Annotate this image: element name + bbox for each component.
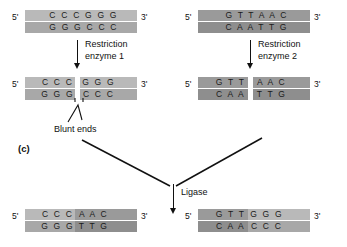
strand-bases-bottom-right: T T G xyxy=(75,221,111,232)
base-sequence-top-right: G G G xyxy=(249,210,284,219)
converging-arm-right xyxy=(176,138,262,186)
base-sequence-top-right: G G G xyxy=(81,78,116,87)
three-prime-label-right-uncut: 3' xyxy=(314,13,320,22)
base-sequence-top-right: A A C xyxy=(78,210,109,219)
strand-pad-right xyxy=(284,209,310,220)
base-sequence-top-left: G T T xyxy=(214,78,245,87)
dna-strand-bottom: C A A T T G xyxy=(198,22,310,33)
dna-strand-bottom: C A A T T G xyxy=(198,89,310,100)
five-prime-label-left-uncut: 5' xyxy=(12,13,18,22)
base-sequence-bottom: C A A T T G xyxy=(224,23,288,32)
strand-pad-left xyxy=(25,77,39,88)
strand-bases-bottom-left: C A A xyxy=(212,89,248,100)
base-sequence-bottom-right: T T G xyxy=(77,222,108,231)
five-prime-label-product-left: 5' xyxy=(12,212,18,221)
dna-duplex-right-cut: G T T A A C C A A T T G xyxy=(198,77,310,100)
three-prime-label-left-cut: 3' xyxy=(141,80,147,89)
strand-pad-left xyxy=(198,77,212,88)
base-sequence-top-left: C C C xyxy=(40,78,73,87)
enzyme2-arrow-head xyxy=(247,63,253,69)
enzyme1-label-line1: Restriction xyxy=(85,39,128,49)
base-sequence-bottom-left: C A A xyxy=(215,90,246,99)
strand-bases-top: C C C G G G xyxy=(43,10,123,21)
strand-bases-top-left: C C C xyxy=(39,77,75,88)
five-prime-label-product-right: 5' xyxy=(185,212,191,221)
strand-pad-left xyxy=(198,10,216,21)
dna-strand-top: C C C G G G xyxy=(25,77,137,88)
three-prime-label-product-right: 3' xyxy=(314,212,320,221)
strand-bases-top-right: A A C xyxy=(75,209,111,220)
strand-bases-bottom-left: G G G xyxy=(39,221,75,232)
strand-bases-top-right: A A C xyxy=(253,77,289,88)
base-sequence-bottom-right: T T G xyxy=(255,90,286,99)
strand-pad-left xyxy=(25,22,43,33)
dna-strand-bottom: G G G C C C xyxy=(25,89,137,100)
dna-strand-top: G T T A A C xyxy=(198,10,310,21)
strand-bases-bottom-right: T T G xyxy=(253,89,289,100)
dna-duplex-left-cut: C C C G G G G G G C C C xyxy=(25,77,137,100)
strand-bases-bottom: C A A T T G xyxy=(216,22,296,33)
strand-pad-right xyxy=(123,10,137,21)
base-sequence-top-right: A A C xyxy=(256,78,287,87)
dna-duplex-left-uncut: C C C G G G G G G C C C xyxy=(25,10,137,33)
enzyme1-label-line2: enzyme 1 xyxy=(85,51,124,61)
converging-arm-left xyxy=(82,140,170,186)
dna-strand-bottom: G G G T T G xyxy=(25,221,137,232)
dna-strand-bottom: C A A C C C xyxy=(198,221,310,232)
strand-bases-top-left: G T T xyxy=(212,209,248,220)
base-sequence-bottom: G G G C C C xyxy=(48,23,118,32)
base-sequence-top-left: C C C xyxy=(40,210,73,219)
enzyme2-label-line2: enzyme 2 xyxy=(258,51,297,61)
enzyme1-arrow-shaft xyxy=(77,40,78,64)
strand-pad-right xyxy=(284,221,310,232)
strand-bases-bottom-left: C A A xyxy=(212,221,248,232)
base-sequence-bottom-left: G G G xyxy=(40,90,75,99)
dna-strand-top: C C C A A C xyxy=(25,209,137,220)
ligase-label: Ligase xyxy=(181,187,208,199)
strand-bases-top-right: G G G xyxy=(248,209,284,220)
strand-pad-left xyxy=(25,221,39,232)
dna-duplex-right-uncut: G T T A A C C A A T T G xyxy=(198,10,310,33)
three-prime-label-product-left: 3' xyxy=(141,212,147,221)
base-sequence-top: G T T A A C xyxy=(224,11,288,20)
strand-pad-left xyxy=(198,209,212,220)
strand-bases-bottom-right: C C C xyxy=(80,89,116,100)
strand-bases-bottom-left: G G G xyxy=(39,89,75,100)
strand-bases-top: G T T A A C xyxy=(216,10,296,21)
base-sequence-bottom-right: C C C xyxy=(249,222,282,231)
base-sequence-bottom-left: G G G xyxy=(40,222,75,231)
strand-pad-left xyxy=(198,22,216,33)
three-prime-label-left-uncut: 3' xyxy=(141,13,147,22)
strand-bases-bottom: G G G C C C xyxy=(43,22,123,33)
three-prime-label-right-cut: 3' xyxy=(314,80,320,89)
enzyme1-arrow-head xyxy=(74,63,80,69)
strand-pad-left xyxy=(198,89,212,100)
enzyme1-label: Restriction enzyme 1 xyxy=(85,39,128,62)
strand-bases-top-left: G T T xyxy=(212,77,248,88)
dna-duplex-product-right: G T T G G G C A A C C C xyxy=(198,209,310,232)
enzyme2-label: Restriction enzyme 2 xyxy=(258,39,301,62)
enzyme2-arrow-shaft xyxy=(250,40,251,64)
five-prime-label-right-uncut: 5' xyxy=(185,13,191,22)
blunt-ends-pointer xyxy=(68,105,82,122)
base-sequence-top: C C C G G G xyxy=(48,11,118,20)
enzyme2-label-line1: Restriction xyxy=(258,39,301,49)
strand-pad-right xyxy=(123,22,137,33)
strand-bases-bottom-right: C C C xyxy=(248,221,284,232)
strand-pad-right xyxy=(111,221,137,232)
strand-pad-right xyxy=(296,22,310,33)
blunt-ends-label: Blunt ends xyxy=(54,124,97,136)
strand-pad-right xyxy=(116,77,137,88)
strand-pad-left xyxy=(198,221,212,232)
strand-pad-left xyxy=(25,10,43,21)
strand-bases-top-right: G G G xyxy=(80,77,116,88)
panel-letter: (c) xyxy=(18,143,30,154)
strand-pad-right xyxy=(296,10,310,21)
base-sequence-bottom-right: C C C xyxy=(81,90,114,99)
base-sequence-bottom-left: C A A xyxy=(215,222,246,231)
dna-strand-top: G T T G G G xyxy=(198,209,310,220)
dna-strand-bottom: G G G C C C xyxy=(25,22,137,33)
five-prime-label-left-cut: 5' xyxy=(12,80,18,89)
strand-pad-right xyxy=(111,209,137,220)
strand-pad-left xyxy=(25,89,39,100)
